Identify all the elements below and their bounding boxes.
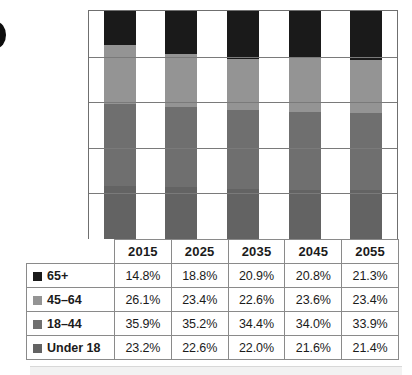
stacked-bar-2025[interactable]: [165, 11, 197, 239]
bar-slot-2055: [335, 11, 397, 239]
bar-segment: [289, 190, 321, 239]
table-header: 20152025203520452055: [27, 240, 399, 264]
stacked-bar-2045[interactable]: [289, 11, 321, 239]
row-label-text: 65+: [47, 269, 68, 283]
row-label-cell: 65+: [27, 264, 115, 288]
bar-segment: [165, 107, 197, 187]
bar-segment: [227, 11, 259, 59]
bar-segment: [165, 11, 197, 54]
table-cell-value: 21.3%: [342, 264, 399, 288]
column-header-2035: 2035: [228, 240, 285, 264]
bar-segment: [104, 45, 136, 105]
table-cell-value: 20.9%: [228, 264, 285, 288]
table-row: 45–6426.1%23.4%22.6%23.6%23.4%: [27, 288, 399, 312]
bar-segment: [350, 113, 382, 190]
table-cell-value: 22.6%: [171, 336, 228, 360]
table-cell-value: 18.8%: [171, 264, 228, 288]
bar-segment: [350, 60, 382, 113]
bar-slot-2045: [274, 11, 336, 239]
table-corner-cell: [27, 240, 115, 264]
table-cell-value: 22.6%: [228, 288, 285, 312]
data-table: 20152025203520452055 65+14.8%18.8%20.9%2…: [26, 239, 399, 360]
bar-segment: [104, 11, 136, 45]
table-cell-value: 14.8%: [115, 264, 172, 288]
row-label-cell: Under 18: [27, 336, 115, 360]
table-cell-value: 23.2%: [115, 336, 172, 360]
row-label-cell: 45–64: [27, 288, 115, 312]
data-table-container: 20152025203520452055 65+14.8%18.8%20.9%2…: [26, 239, 398, 360]
table-row: 65+14.8%18.8%20.9%20.8%21.3%: [27, 264, 399, 288]
row-label-cell: 18–44: [27, 312, 115, 336]
bar-slot-2035: [212, 11, 274, 239]
column-header-2045: 2045: [285, 240, 342, 264]
bar-segment: [289, 58, 321, 112]
table-cell-value: 35.2%: [171, 312, 228, 336]
table-cell-value: 34.0%: [285, 312, 342, 336]
bar-segment: [350, 11, 382, 60]
legend-swatch-icon: [33, 272, 42, 281]
bar-segment: [289, 112, 321, 190]
legend-swatch-icon: [33, 344, 42, 353]
table-cell-value: 22.0%: [228, 336, 285, 360]
table-cell-value: 23.6%: [285, 288, 342, 312]
bar-segment: [227, 59, 259, 111]
column-header-2015: 2015: [115, 240, 172, 264]
bar-slot-2015: [89, 11, 151, 239]
table-body: 65+14.8%18.8%20.9%20.8%21.3%45–6426.1%23…: [27, 264, 399, 360]
row-label-text: 45–64: [47, 293, 82, 307]
bar-segment: [289, 11, 321, 58]
table-cell-value: 33.9%: [342, 312, 399, 336]
table-cell-value: 23.4%: [171, 288, 228, 312]
row-label-text: 18–44: [47, 317, 82, 331]
column-header-2055: 2055: [342, 240, 399, 264]
table-cell-value: 26.1%: [115, 288, 172, 312]
stacked-bar-2055[interactable]: [350, 11, 382, 239]
table-cell-value: 20.8%: [285, 264, 342, 288]
table-cell-value: 21.4%: [342, 336, 399, 360]
caption-box-edge: [30, 366, 402, 375]
bar-segment: [104, 104, 136, 186]
legend-swatch-icon: [33, 296, 42, 305]
column-header-2025: 2025: [171, 240, 228, 264]
row-label-text: Under 18: [47, 341, 101, 355]
bar-segment: [227, 110, 259, 188]
chart-bars-container: [89, 11, 397, 239]
bar-segment: [350, 190, 382, 239]
stacked-bar-2035[interactable]: [227, 11, 259, 239]
bar-segment: [227, 189, 259, 239]
stacked-bar-chart: [88, 10, 398, 240]
bar-segment: [165, 187, 197, 239]
bar-segment: [165, 54, 197, 107]
table-row: 18–4435.9%35.2%34.4%34.0%33.9%: [27, 312, 399, 336]
table-cell-value: 35.9%: [115, 312, 172, 336]
bullet-dot-icon: [0, 22, 6, 48]
bar-slot-2025: [151, 11, 213, 239]
table-header-row: 20152025203520452055: [27, 240, 399, 264]
legend-swatch-icon: [33, 320, 42, 329]
table-cell-value: 34.4%: [228, 312, 285, 336]
stacked-bar-2015[interactable]: [104, 11, 136, 239]
table-cell-value: 21.6%: [285, 336, 342, 360]
table-cell-value: 23.4%: [342, 288, 399, 312]
bar-segment: [104, 186, 136, 239]
table-row: Under 1823.2%22.6%22.0%21.6%21.4%: [27, 336, 399, 360]
